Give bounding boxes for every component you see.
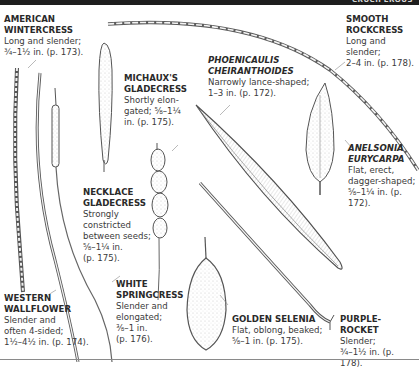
pod-michauxs-gladecress (99, 43, 112, 172)
label-american-wintercress: AMERICAN WINTERCRESS Long and slender; ¾… (4, 14, 83, 58)
label-michauxs-gladecress: MICHAUX'S GLADECRESS Shortly elon- gated… (124, 73, 187, 128)
bottom-divider (0, 359, 419, 360)
label-anelsonia-eurycarpa: ANELSONIA EURYCARPA Flat, erect, dagger-… (348, 143, 419, 209)
pod-american-wintercress (15, 68, 23, 292)
label-necklace-gladecress: NECKLACE GLADECRESS Strongly constricted… (83, 187, 151, 264)
pod-anelsonia (306, 83, 334, 195)
label-smooth-rockcress: SMOOTH ROCKCRESS Long and slender; 2–4 i… (346, 14, 419, 69)
pod-necklace-gladecress (151, 143, 168, 300)
label-white-springcress: WHITE SPRINGCRESS Slender and elongated;… (116, 279, 183, 345)
label-purple-rocket: PURPLE-ROCKET Slender; ¾–1½ in. (p. 178)… (340, 314, 419, 369)
label-golden-selenia: GOLDEN SELENIA Flat, oblong, beaked; ⅝–1… (232, 314, 322, 347)
pod-golden-selenia (187, 237, 226, 350)
label-phoenicaulis-cheiranthoides: PHOENICAULIS CHEIRANTHOIDES Narrowly lan… (208, 55, 309, 99)
label-western-wallflower: WESTERN WALLFLOWER Slender and often 4-s… (4, 293, 89, 348)
